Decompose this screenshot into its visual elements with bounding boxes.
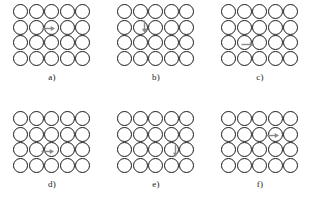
panel-d-label: d): [0, 179, 104, 189]
lattice-a: [13, 4, 91, 66]
atom: [13, 4, 28, 19]
atom: [117, 35, 132, 50]
atom: [268, 142, 283, 157]
panel-a: a): [0, 0, 104, 100]
panel-f: f): [208, 107, 312, 207]
atom: [221, 158, 236, 173]
atom: [75, 158, 90, 173]
atom: [60, 158, 75, 173]
atom: [117, 111, 132, 126]
atom: [237, 4, 252, 19]
atom: [179, 20, 194, 35]
atom: [283, 51, 298, 66]
atom: [268, 20, 283, 35]
atom: [268, 35, 283, 50]
lattice-b: [117, 4, 195, 66]
atom: [29, 158, 44, 173]
atom: [75, 127, 90, 142]
atom: [44, 20, 59, 35]
lattice-f: [221, 111, 299, 173]
atom: [29, 35, 44, 50]
panel-a-label: a): [0, 72, 104, 82]
atom: [268, 127, 283, 142]
atom: [44, 142, 59, 157]
atom: [164, 142, 179, 157]
atom: [29, 20, 44, 35]
atom: [237, 51, 252, 66]
atom: [60, 127, 75, 142]
panel-c: c): [208, 0, 312, 100]
atom: [237, 35, 252, 50]
lattice-e: [117, 111, 195, 173]
atom: [252, 158, 267, 173]
atom: [75, 51, 90, 66]
atom: [133, 35, 148, 50]
panel-f-label: f): [208, 179, 312, 189]
atom: [75, 111, 90, 126]
atom: [44, 158, 59, 173]
atom: [283, 142, 298, 157]
atom: [60, 4, 75, 19]
atom: [179, 127, 194, 142]
atom: [29, 142, 44, 157]
atom: [252, 4, 267, 19]
atom: [283, 111, 298, 126]
atom: [179, 142, 194, 157]
atom: [13, 158, 28, 173]
atom: [179, 51, 194, 66]
atom: [148, 35, 163, 50]
atom: [29, 127, 44, 142]
atom: [29, 51, 44, 66]
panel-c-label: c): [208, 72, 312, 82]
atom: [252, 20, 267, 35]
atom: [60, 111, 75, 126]
atom: [221, 35, 236, 50]
atom: [29, 4, 44, 19]
atom: [44, 4, 59, 19]
atom: [283, 4, 298, 19]
atom: [133, 127, 148, 142]
atom: [268, 111, 283, 126]
atom: [179, 158, 194, 173]
atom: [268, 51, 283, 66]
atom: [117, 51, 132, 66]
atom: [221, 127, 236, 142]
atom: [221, 20, 236, 35]
atom: [44, 51, 59, 66]
atom: [164, 127, 179, 142]
atom: [75, 142, 90, 157]
atom: [283, 35, 298, 50]
atom: [75, 20, 90, 35]
atom: [75, 4, 90, 19]
atom: [252, 111, 267, 126]
panel-e: e): [104, 107, 208, 207]
atom: [13, 111, 28, 126]
atom: [252, 142, 267, 157]
atom: [164, 20, 179, 35]
atom: [13, 35, 28, 50]
atom: [252, 35, 267, 50]
atom: [44, 111, 59, 126]
atom: [237, 20, 252, 35]
panel-d: d): [0, 107, 104, 207]
atom: [179, 4, 194, 19]
atom: [179, 35, 194, 50]
atom: [60, 35, 75, 50]
atom: [117, 127, 132, 142]
atom: [148, 20, 163, 35]
figure-panel-grid: a) b) c) d) e) f): [0, 0, 313, 213]
atom: [148, 142, 163, 157]
atom: [148, 158, 163, 173]
atom: [117, 158, 132, 173]
panel-b: b): [104, 0, 208, 100]
atom: [237, 111, 252, 126]
atom: [237, 158, 252, 173]
atom: [148, 4, 163, 19]
atom: [13, 51, 28, 66]
atom: [13, 20, 28, 35]
atom: [148, 127, 163, 142]
atom: [13, 142, 28, 157]
atom: [13, 127, 28, 142]
atom: [60, 142, 75, 157]
atom: [164, 4, 179, 19]
